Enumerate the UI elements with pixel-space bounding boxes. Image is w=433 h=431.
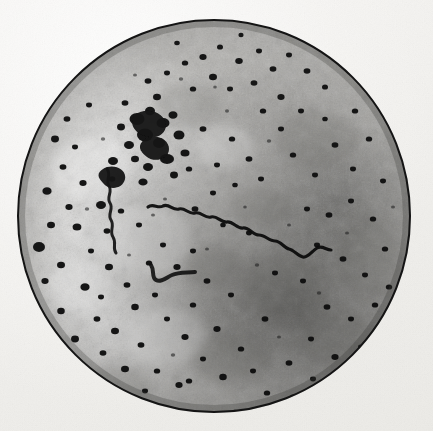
microscope-field [17,19,411,413]
microphotograph-figure: Microphotograph of a circular microscope… [0,0,433,431]
